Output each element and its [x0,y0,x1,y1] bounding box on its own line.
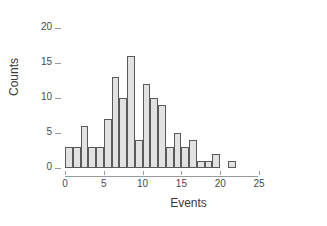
x-tick-mark [104,171,105,175]
y-tick-label: 10 [18,91,52,102]
plot-area [65,28,259,168]
histogram-bar [158,105,166,168]
y-tick-mark [55,133,61,134]
histogram-bar [228,161,236,168]
histogram-bar [119,98,127,168]
histogram-bar [88,147,96,168]
x-tick-label: 0 [50,178,80,189]
histogram-bar [181,147,189,168]
histogram-bar [189,140,197,168]
y-tick-mark [55,98,61,99]
histogram-bar [135,140,143,168]
y-axis-title: Counts [7,27,21,127]
x-tick-mark [220,171,221,175]
histogram-bar [174,133,182,168]
y-tick-mark [55,63,61,64]
y-tick-label: 15 [18,56,52,67]
histogram-chart: 0510152025 05101520 Events Counts [0,0,327,226]
x-tick-label: 25 [244,178,274,189]
x-tick-label: 15 [166,178,196,189]
x-tick-mark [65,171,66,175]
histogram-bar [143,84,151,168]
histogram-bar [212,154,220,168]
histogram-bar [166,147,174,168]
histogram-bar [81,126,89,168]
histogram-bar [205,161,213,168]
histogram-bar [197,161,205,168]
histogram-bar [65,147,73,168]
x-tick-mark [143,171,144,175]
histogram-bar [127,56,135,168]
x-axis-title: Events [0,196,327,210]
x-tick-label: 20 [205,178,235,189]
histogram-bar [104,119,112,168]
x-tick-mark [181,171,182,175]
x-axis-line [65,176,258,177]
y-tick-label: 0 [18,161,52,172]
y-tick-mark [55,168,61,169]
histogram-bar [96,147,104,168]
histogram-bar [73,147,81,168]
histogram-bar [112,77,120,168]
y-tick-label: 20 [18,21,52,32]
y-tick-mark [55,28,61,29]
x-tick-label: 5 [89,178,119,189]
x-tick-mark [259,171,260,175]
y-tick-label: 5 [18,126,52,137]
x-tick-label: 10 [128,178,158,189]
histogram-bar [150,98,158,168]
